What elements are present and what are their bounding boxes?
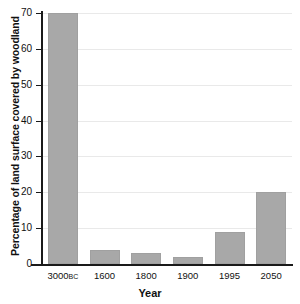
y-axis-line bbox=[41, 11, 43, 265]
x-axis-line bbox=[31, 264, 293, 266]
bar bbox=[131, 253, 161, 264]
bar-chart: Percentage of land surface covered by wo… bbox=[0, 0, 300, 304]
y-tick-label: 30 bbox=[0, 151, 32, 161]
x-tick-label: 2050 bbox=[241, 270, 300, 281]
gridline bbox=[42, 85, 292, 86]
bar bbox=[215, 232, 245, 264]
gridline bbox=[42, 156, 292, 157]
y-tick-label: 40 bbox=[0, 116, 32, 126]
bar bbox=[256, 192, 286, 264]
y-tick-label: 70 bbox=[0, 8, 32, 18]
bar bbox=[173, 257, 203, 264]
y-tick-label: 10 bbox=[0, 223, 32, 233]
gridline bbox=[42, 228, 292, 229]
gridline bbox=[42, 49, 292, 50]
gridline bbox=[42, 192, 292, 193]
y-tick-label: 0 bbox=[0, 259, 32, 269]
y-tick-label: 20 bbox=[0, 187, 32, 197]
y-tick-label: 60 bbox=[0, 44, 32, 54]
bar bbox=[48, 13, 78, 264]
y-tick-label: 50 bbox=[0, 80, 32, 90]
bar bbox=[90, 250, 120, 264]
gridline bbox=[42, 13, 292, 14]
gridline bbox=[42, 121, 292, 122]
plot-area bbox=[42, 13, 292, 264]
x-axis-title: Year bbox=[0, 287, 300, 299]
